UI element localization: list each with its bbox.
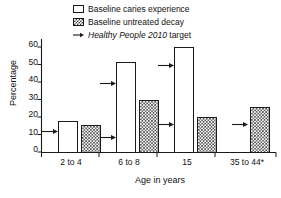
plot-area: Percentage 60 50 40 30 20 10 0: [0, 0, 281, 198]
bar-caries-2to4: [58, 121, 78, 153]
bar-decay-35to44: [250, 107, 270, 153]
bar-caries-6to8: [116, 62, 136, 153]
target-arrow-decay-35to44: [232, 120, 248, 129]
target-arrow-caries-15: [158, 61, 174, 70]
bar-decay-15: [197, 117, 217, 153]
bar-caries-15: [174, 47, 194, 153]
bar-decay-2to4: [81, 125, 101, 153]
x-axis-tick-labels: 2 to 4 6 to 8 15 35 to 44*: [0, 157, 281, 171]
target-arrow-decay-6to8: [100, 133, 116, 142]
x-tick-label: 35 to 44*: [219, 157, 275, 167]
x-tick-label: 15: [161, 157, 213, 167]
target-arrow-caries-6to8: [100, 79, 116, 88]
bar-decay-6to8: [139, 100, 159, 153]
target-arrow-decay-15: [158, 120, 174, 129]
x-tick-label: 6 to 8: [103, 157, 155, 167]
x-tick-label: 2 to 4: [45, 157, 97, 167]
x-axis-title: Age in years: [45, 175, 275, 185]
chart-figure: Baseline caries experience Baseline untr…: [0, 0, 281, 198]
target-arrow-caries-2to4: [42, 127, 58, 136]
